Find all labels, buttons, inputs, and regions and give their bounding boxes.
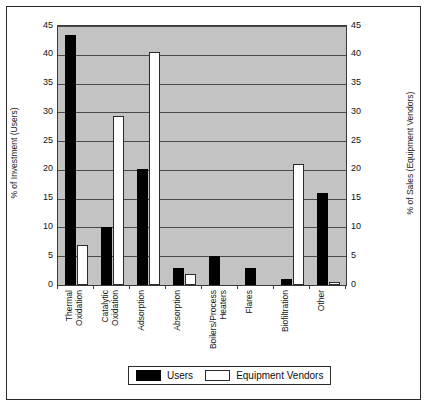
x-axis-label-line: Biofiltration <box>281 290 291 332</box>
x-axis-label-boilers-process-heaters: Boilers/ProcessHeaters <box>209 290 228 349</box>
gridline <box>58 26 346 27</box>
bar-users-thermal-oxidation <box>65 35 76 285</box>
bar-users-absorption <box>173 268 184 285</box>
x-axis-label-line: Adsorption <box>137 290 147 331</box>
x-axis-label-other: Other <box>317 290 327 311</box>
x-tick-mark <box>57 285 58 289</box>
bar-users-boilers-process-heaters <box>209 256 220 285</box>
tick-label: 0 <box>33 280 53 289</box>
y-axis-right-title: % of Sales (Equipment Vendors) <box>405 63 415 243</box>
gridline <box>58 55 346 56</box>
y-axis-right-ticks: 051015202530354045 <box>351 25 373 284</box>
bar-equipment-vendors-biofiltration <box>293 164 304 285</box>
plot-area <box>57 25 347 286</box>
x-axis-label-line: Flares <box>245 290 255 314</box>
tick-label: 15 <box>33 193 53 202</box>
x-tick-mark <box>273 285 274 289</box>
tick-label: 35 <box>351 78 371 87</box>
legend-swatch-icon <box>136 370 161 381</box>
tick-label: 5 <box>351 251 371 260</box>
tick-label: 40 <box>33 49 53 58</box>
tick-label: 25 <box>351 136 371 145</box>
y-axis-left-ticks: 051015202530354045 <box>31 25 53 284</box>
y-axis-left-title: % of Investment (Users) <box>9 63 19 243</box>
tick-label: 30 <box>351 107 371 116</box>
x-axis-label-biofiltration: Biofiltration <box>281 290 291 332</box>
x-axis-label-thermal-oxidation: ThermalOxidation <box>65 290 84 326</box>
gridline <box>58 84 346 85</box>
tick-label: 10 <box>33 222 53 231</box>
x-axis-label-line: Absorption <box>173 290 183 331</box>
x-axis-label-line: Oxidation <box>75 290 85 326</box>
x-axis-label-absorption: Absorption <box>173 290 183 331</box>
legend-swatch-icon <box>205 370 230 381</box>
x-tick-mark <box>309 285 310 289</box>
x-axis-label-adsorption: Adsorption <box>137 290 147 331</box>
legend-entry: Users <box>136 370 193 381</box>
x-tick-mark <box>201 285 202 289</box>
tick-label: 0 <box>351 280 371 289</box>
x-tick-mark <box>165 285 166 289</box>
tick-label: 20 <box>33 164 53 173</box>
bar-equipment-vendors-absorption <box>185 274 196 286</box>
bar-users-other <box>317 193 328 285</box>
legend-label: Users <box>167 371 193 381</box>
legend-label: Equipment Vendors <box>236 371 323 381</box>
x-tick-mark <box>237 285 238 289</box>
tick-label: 15 <box>351 193 371 202</box>
gridline <box>58 112 346 113</box>
tick-label: 10 <box>351 222 371 231</box>
chart-figure: % of Investment (Users) % of Sales (Equi… <box>0 0 427 406</box>
tick-label: 20 <box>351 164 371 173</box>
legend-entry: Equipment Vendors <box>205 370 323 381</box>
chart-legend: UsersEquipment Vendors <box>128 366 331 385</box>
x-tick-mark <box>129 285 130 289</box>
tick-label: 45 <box>33 21 53 30</box>
x-axis-category-labels: ThermalOxidationCatalyticOxidationAdsorp… <box>57 290 347 356</box>
x-axis-label-line: Heaters <box>219 290 229 349</box>
bar-users-flares <box>245 268 256 285</box>
tick-label: 5 <box>33 251 53 260</box>
bar-equipment-vendors-thermal-oxidation <box>77 245 88 285</box>
x-tick-mark <box>93 285 94 289</box>
bar-users-adsorption <box>137 169 148 285</box>
tick-label: 45 <box>351 21 371 30</box>
x-axis-label-line: Other <box>317 290 327 311</box>
tick-label: 35 <box>33 78 53 87</box>
bar-equipment-vendors-catalytic-oxidation <box>113 116 124 285</box>
x-axis-label-line: Oxidation <box>111 290 121 326</box>
tick-label: 25 <box>33 136 53 145</box>
x-tick-mark <box>345 285 346 289</box>
gridline <box>58 141 346 142</box>
tick-label: 40 <box>351 49 371 58</box>
bar-users-catalytic-oxidation <box>101 227 112 285</box>
tick-label: 30 <box>33 107 53 116</box>
bar-equipment-vendors-adsorption <box>149 52 160 285</box>
x-axis-label-flares: Flares <box>245 290 255 314</box>
x-axis-label-catalytic-oxidation: CatalyticOxidation <box>101 290 120 326</box>
